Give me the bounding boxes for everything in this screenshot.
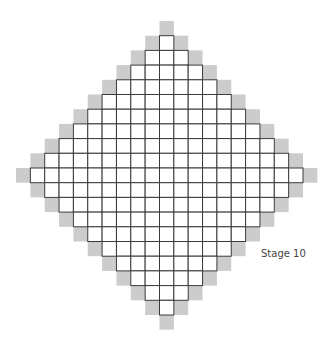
white-cell	[174, 183, 188, 198]
gray-cell	[289, 153, 303, 168]
white-cell	[88, 153, 102, 168]
white-cell	[88, 212, 102, 227]
white-cell	[88, 168, 102, 183]
white-cell	[203, 168, 217, 183]
gray-cell	[260, 212, 274, 227]
white-cell	[246, 212, 260, 227]
white-cell	[59, 168, 73, 183]
white-cell	[174, 227, 188, 242]
white-cell	[174, 109, 188, 124]
white-cell	[116, 212, 130, 227]
white-cell	[131, 168, 145, 183]
white-cell	[160, 139, 174, 154]
white-cell	[131, 212, 145, 227]
white-cell	[102, 227, 116, 242]
white-cell	[174, 242, 188, 257]
white-cell	[246, 139, 260, 154]
white-cell	[145, 80, 159, 95]
gray-cell	[30, 183, 44, 198]
gray-cell	[160, 21, 174, 36]
white-cell	[145, 256, 159, 271]
white-cell	[131, 139, 145, 154]
white-cell	[231, 139, 245, 154]
white-cell	[131, 95, 145, 110]
white-cell	[73, 212, 87, 227]
white-cell	[73, 197, 87, 212]
white-cell	[102, 124, 116, 139]
white-cell	[246, 168, 260, 183]
white-cell	[160, 300, 174, 315]
white-cell	[116, 168, 130, 183]
white-cell	[145, 271, 159, 286]
gray-cell	[116, 271, 130, 286]
white-cell	[131, 197, 145, 212]
white-cell	[217, 124, 231, 139]
white-cell	[203, 227, 217, 242]
white-cell	[246, 197, 260, 212]
white-existing-cells	[30, 36, 303, 315]
gray-cell	[274, 139, 288, 154]
white-cell	[102, 183, 116, 198]
white-cell	[174, 95, 188, 110]
white-cell	[116, 139, 130, 154]
white-cell	[131, 65, 145, 80]
white-cell	[160, 153, 174, 168]
white-cell	[145, 65, 159, 80]
gray-cell	[246, 109, 260, 124]
white-cell	[59, 183, 73, 198]
white-cell	[145, 168, 159, 183]
white-cell	[174, 286, 188, 301]
white-cell	[174, 80, 188, 95]
white-cell	[274, 168, 288, 183]
white-cell	[274, 183, 288, 198]
white-cell	[102, 95, 116, 110]
white-cell	[145, 153, 159, 168]
white-cell	[160, 109, 174, 124]
white-cell	[188, 183, 202, 198]
white-cell	[188, 65, 202, 80]
white-cell	[160, 256, 174, 271]
gray-cell	[217, 256, 231, 271]
white-cell	[174, 212, 188, 227]
white-cell	[188, 168, 202, 183]
white-cell	[88, 139, 102, 154]
white-cell	[160, 50, 174, 65]
white-cell	[174, 168, 188, 183]
white-cell	[217, 183, 231, 198]
gray-cell	[131, 286, 145, 301]
white-cell	[160, 168, 174, 183]
white-cell	[102, 168, 116, 183]
diamond-grid-diagram	[0, 0, 328, 347]
white-cell	[174, 271, 188, 286]
white-cell	[102, 197, 116, 212]
gray-cell	[131, 50, 145, 65]
gray-cell	[203, 65, 217, 80]
white-cell	[45, 168, 59, 183]
white-cell	[231, 227, 245, 242]
white-cell	[145, 50, 159, 65]
white-cell	[73, 168, 87, 183]
white-cell	[116, 256, 130, 271]
white-cell	[203, 212, 217, 227]
white-cell	[217, 109, 231, 124]
white-cell	[160, 242, 174, 257]
gray-cell	[73, 227, 87, 242]
white-cell	[174, 50, 188, 65]
white-cell	[116, 183, 130, 198]
white-cell	[30, 168, 44, 183]
white-cell	[160, 36, 174, 51]
white-cell	[188, 109, 202, 124]
gray-cell	[145, 36, 159, 51]
white-cell	[174, 124, 188, 139]
gray-cell	[260, 124, 274, 139]
white-cell	[145, 139, 159, 154]
white-cell	[188, 212, 202, 227]
gray-cell	[274, 197, 288, 212]
white-cell	[116, 227, 130, 242]
white-cell	[203, 139, 217, 154]
white-cell	[217, 242, 231, 257]
white-cell	[231, 183, 245, 198]
gray-cell	[30, 153, 44, 168]
white-cell	[188, 153, 202, 168]
gray-cell	[160, 315, 174, 330]
